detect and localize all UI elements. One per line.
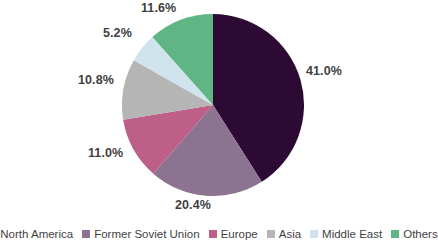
legend-label-europe: Europe [221,228,258,240]
legend-label-middle-east: Middle East [322,228,382,240]
legend-item-middle-east[interactable]: Middle East [310,228,382,240]
legend-label-north-america: North America [0,228,73,240]
pie-slice-group [122,14,304,196]
legend-item-others[interactable]: Others [391,228,438,240]
legend-item-asia[interactable]: Asia [267,228,301,240]
legend-label-former-soviet-union: Former Soviet Union [94,228,199,240]
legend-label-others: Others [403,228,438,240]
pie-svg [122,14,304,196]
slice-label-middle-east: 5.2% [103,26,132,40]
legend-item-north-america[interactable]: North America [0,228,73,240]
legend-label-asia: Asia [279,228,301,240]
chart-legend: North AmericaFormer Soviet UnionEuropeAs… [0,225,426,243]
legend-swatch-icon-asia [267,230,275,238]
slice-label-former-soviet-union: 20.4% [175,198,211,212]
slice-label-others: 11.6% [141,1,176,15]
legend-swatch-icon-others [391,230,399,238]
slice-label-europe: 11.0% [88,146,123,160]
slice-label-north-america: 41.0% [306,64,342,78]
pie-chart-canvas [122,14,304,196]
legend-item-former-soviet-union[interactable]: Former Soviet Union [82,228,199,240]
legend-swatch-icon-middle-east [310,230,318,238]
legend-item-europe[interactable]: Europe [209,228,258,240]
slice-label-asia: 10.8% [78,73,114,87]
legend-swatch-icon-europe [209,230,217,238]
legend-swatch-icon-former-soviet-union [82,230,90,238]
